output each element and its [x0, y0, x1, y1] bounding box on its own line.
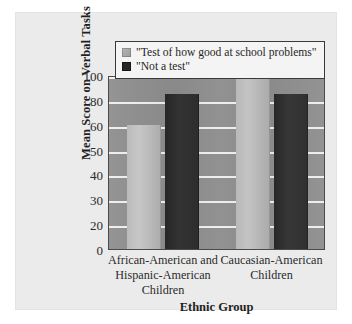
legend-entry-label: "Test of how good at school problems"	[136, 47, 317, 59]
y-axis-tick-40: 40	[90, 169, 103, 182]
plot-area	[108, 76, 325, 250]
y-axis-tick-0: 0	[97, 244, 104, 257]
x-axis-category-label-1: African-American andHispanic-AmericanChi…	[108, 253, 218, 298]
bar-series2-category1	[165, 94, 199, 249]
category-label-line: Children	[218, 268, 325, 283]
y-axis-tick-50: 50	[90, 144, 103, 157]
category-label-line: Children	[108, 283, 218, 298]
category-label-line: African-American and	[108, 253, 218, 268]
legend-swatch-dark	[122, 62, 131, 71]
legend-swatch-light	[122, 48, 131, 57]
legend-entry-label: "Not a test"	[136, 61, 190, 73]
y-axis-tick-80: 80	[90, 94, 103, 107]
legend-entry-2: "Not a test"	[122, 60, 317, 73]
x-axis-title: Ethnic Group	[108, 300, 325, 315]
x-axis-category-labels: African-American andHispanic-AmericanChi…	[108, 253, 325, 298]
y-axis-tick-100: 100	[84, 70, 104, 83]
y-axis-tick-30: 30	[90, 194, 103, 207]
chart-panel: Mean Score on Verbal Tasks 1008060504030…	[15, 12, 337, 310]
y-axis-tick-20: 20	[90, 219, 103, 232]
y-axis-tick-60: 60	[90, 119, 103, 132]
x-axis-category-label-2: Caucasian-AmericanChildren	[218, 253, 325, 298]
figure-canvas: Mean Score on Verbal Tasks 1008060504030…	[0, 0, 352, 324]
category-label-line: Caucasian-American	[218, 253, 325, 268]
legend-entry-1: "Test of how good at school problems"	[122, 46, 317, 59]
chart-legend: "Test of how good at school problems""No…	[115, 41, 325, 79]
bar-series1-category2	[236, 76, 270, 249]
y-axis-tick-labels: 1008060504030200	[77, 76, 103, 250]
bar-series1-category1	[127, 125, 161, 249]
category-label-line: Hispanic-American	[108, 268, 218, 283]
bar-series2-category2	[274, 94, 308, 249]
